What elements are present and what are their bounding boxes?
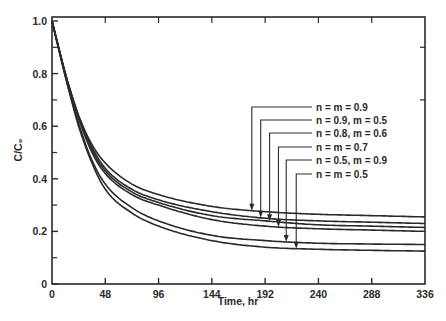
x-tick-label: 240 xyxy=(310,288,328,300)
x-tick-label: 0 xyxy=(49,288,55,300)
y-tick-label: 0.6 xyxy=(32,120,47,132)
legend-label: n = m = 0.5 xyxy=(316,169,368,180)
arrowhead-icon xyxy=(276,220,281,227)
legend-label: n = 0.5, m = 0.9 xyxy=(316,155,388,166)
legend-label: n = m = 0.7 xyxy=(316,142,368,153)
y-tick-label: 0.2 xyxy=(32,225,47,237)
x-tick-label: 288 xyxy=(363,288,381,300)
arrowhead-icon xyxy=(284,235,289,242)
leader-line xyxy=(296,174,312,245)
leader-line xyxy=(286,160,312,238)
leader-line xyxy=(278,147,312,223)
y-axis-title: C/C₀ xyxy=(12,138,24,161)
x-tick-label: 336 xyxy=(416,288,434,300)
y-tick-label: 0.4 xyxy=(32,173,47,185)
legend-label: n = 0.8, m = 0.6 xyxy=(316,128,388,139)
legend-label: n = 0.9, m = 0.5 xyxy=(316,115,388,126)
x-tick-label: 96 xyxy=(153,288,165,300)
arrowhead-icon xyxy=(258,211,263,218)
concentration-vs-time-chart: 00.20.40.60.81.0 04896144192240288336 n … xyxy=(0,0,446,321)
legend-labels: n = m = 0.9n = 0.9, m = 0.5n = 0.8, m = … xyxy=(316,102,388,180)
curve-line xyxy=(52,21,425,231)
x-tick-label: 192 xyxy=(256,288,274,300)
y-tick-label: 0 xyxy=(41,278,47,290)
arrowhead-icon xyxy=(294,242,299,249)
legend-label: n = m = 0.9 xyxy=(316,102,368,113)
x-axis-title: Time, hr xyxy=(218,295,259,307)
y-tick-label: 0.8 xyxy=(32,68,47,80)
arrowhead-icon xyxy=(249,204,254,211)
x-tick-label: 48 xyxy=(99,288,111,300)
leader-line xyxy=(270,133,312,217)
y-tick-label: 1.0 xyxy=(32,15,47,27)
